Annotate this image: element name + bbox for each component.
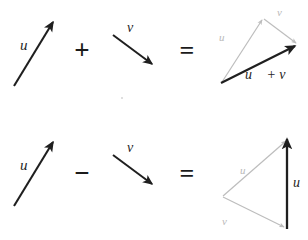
subtraction-operand-u-vector: u⃗	[14, 142, 53, 206]
u-arrow-shaft	[14, 22, 53, 86]
triangle-v-arrow	[264, 19, 296, 43]
u-vector-label: u⃗	[20, 37, 39, 53]
v-arrow-shaft	[113, 35, 152, 64]
v-vector-label: v⃗	[127, 20, 144, 35]
triangle-v-label: v⃗	[277, 6, 290, 18]
triangle-v-label-2: v⃗	[222, 215, 235, 227]
u-arrow-shaft-2	[14, 142, 53, 206]
minus-operator: −	[74, 158, 89, 188]
scan-speck-icon	[121, 97, 123, 99]
vector-diagram: u⃗ + v⃗ = u⃗ v⃗ u⃗ + v⃗ u⃗	[0, 0, 308, 240]
difference-result-label: u⃗ − v⃗	[293, 175, 308, 190]
equals-sign-subtraction: =	[180, 159, 195, 188]
v-arrow-shaft-2	[113, 155, 152, 184]
sum-result-label: u⃗ + v⃗	[245, 67, 296, 82]
equals-sign-addition: =	[180, 36, 195, 65]
u-vector-label-2: u⃗	[20, 157, 39, 173]
addition-operand-v-vector: v⃗	[113, 20, 152, 64]
triangle-u-arrow-2	[223, 141, 286, 196]
diagram-canvas: u⃗ + v⃗ = u⃗ v⃗ u⃗ + v⃗ u⃗	[0, 0, 308, 240]
triangle-u-label: u⃗	[219, 31, 233, 43]
v-vector-label-2: v⃗	[127, 140, 144, 155]
addition-triangle: u⃗ v⃗ u⃗ + v⃗	[219, 6, 296, 83]
plus-operator: +	[74, 35, 89, 65]
subtraction-triangle: u⃗ v⃗ u⃗ − v⃗	[222, 139, 308, 229]
subtraction-operand-v-vector: v⃗	[113, 140, 152, 184]
addition-operand-u-vector: u⃗	[14, 22, 53, 86]
triangle-u-label-2: u⃗	[240, 164, 254, 176]
